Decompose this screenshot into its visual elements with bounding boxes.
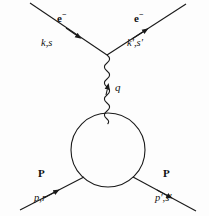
label-electron-incoming: e−	[57, 11, 66, 24]
electron-outgoing-line	[107, 4, 186, 55]
proton-incoming-line	[20, 177, 84, 210]
diagram-canvas	[0, 0, 209, 216]
label-proton-incoming-momentum: p,r	[34, 193, 46, 204]
label-photon-momentum: q	[115, 82, 121, 93]
label-electron-incoming-charge: −	[62, 10, 67, 19]
electron-incoming-arrow	[66, 28, 79, 37]
label-electron-outgoing-momentum: k′,s′	[127, 38, 143, 49]
label-proton-incoming: P	[38, 168, 45, 179]
label-proton-outgoing-momentum: p′,s′	[155, 193, 172, 204]
label-electron-outgoing: e−	[134, 11, 143, 24]
label-electron-outgoing-charge: −	[139, 10, 144, 19]
label-electron-incoming-momentum: k,s	[41, 38, 52, 49]
feynman-diagram-figure: e− k,s e− k′,s′ q P p,r P p′,s′	[0, 0, 209, 216]
label-proton-outgoing: P	[163, 168, 170, 179]
